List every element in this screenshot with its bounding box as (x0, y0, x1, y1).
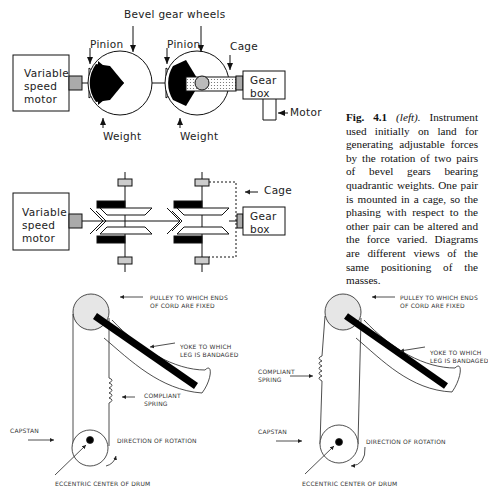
diagram-leg-right (276, 294, 460, 474)
label-line: COMPLIANT (144, 392, 181, 400)
label-line: LEG IS BANDAGED (180, 351, 238, 359)
weight-label-left: Weight (103, 130, 141, 142)
label-line: Gear (250, 74, 277, 87)
label-line: Variable (22, 206, 67, 219)
label-line: speed (24, 80, 69, 93)
label-line: OF CORD ARE FIXED (150, 302, 228, 310)
label-line: Variable (24, 67, 69, 80)
eccentric-label-left: ECCENTRIC CENTER OF DRUM (55, 480, 150, 488)
gearbox-label-middle: Gear box (250, 210, 277, 236)
caption-body: Instrument used initially on land for ge… (346, 111, 478, 286)
eccentric-label-right: ECCENTRIC CENTER OF DRUM (302, 480, 397, 488)
label-line: motor (22, 232, 67, 245)
label-line: Gear (250, 210, 277, 223)
label-line: motor (24, 93, 69, 106)
pinion-label-left: Pinion (90, 38, 123, 50)
label-line: PULLEY TO WHICH ENDS (400, 294, 478, 302)
bevel-gear-label: Bevel gear wheels (124, 8, 225, 20)
motor-label-top: Variable speed motor (24, 67, 69, 106)
pulley-label-right: PULLEY TO WHICH ENDS OF CORD ARE FIXED (400, 294, 478, 309)
weight-label-right: Weight (180, 130, 218, 142)
rotation-label-left: DIRECTION OF ROTATION (117, 437, 197, 445)
label-line: speed (22, 219, 67, 232)
label-line: LEG IS BANDAGED (430, 357, 488, 365)
figure-number: Fig. 4.1 (346, 111, 387, 123)
yoke-label-right: YOKE TO WHICH LEG IS BANDAGED (430, 349, 488, 364)
label-line: YOKE TO WHICH (180, 343, 238, 351)
label-line: box (250, 223, 277, 236)
label-line: SPRING (258, 376, 295, 384)
cage-label-top: Cage (230, 40, 258, 52)
motor-label-right: Motor (290, 106, 322, 118)
label-line: SPRING (144, 400, 181, 408)
figure-qualifier: (left). (396, 111, 421, 123)
gearbox-label-top: Gear box (250, 74, 277, 100)
spring-label-right: COMPLIANT SPRING (258, 368, 295, 383)
spring-label-left: COMPLIANT SPRING (144, 392, 181, 407)
label-line: YOKE TO WHICH (430, 349, 488, 357)
label-line: OF CORD ARE FIXED (400, 302, 478, 310)
pinion-label-right: Pinion (167, 38, 200, 50)
diagram-leg-left (28, 294, 210, 475)
pulley-label-left: PULLEY TO WHICH ENDS OF CORD ARE FIXED (150, 294, 228, 309)
motor-label-middle: Variable speed motor (22, 206, 67, 245)
label-line: box (250, 87, 277, 100)
cage-label-middle: Cage (264, 184, 292, 196)
label-line: PULLEY TO WHICH ENDS (150, 294, 228, 302)
yoke-label-left: YOKE TO WHICH LEG IS BANDAGED (180, 343, 238, 358)
figure-caption: Fig. 4.1 (left). Instrument used initial… (346, 111, 478, 288)
capstan-label-right: CAPSTAN (258, 428, 287, 436)
capstan-label-left: CAPSTAN (10, 427, 39, 435)
label-line: COMPLIANT (258, 368, 295, 376)
rotation-label-right: DIRECTION OF ROTATION (366, 438, 446, 446)
